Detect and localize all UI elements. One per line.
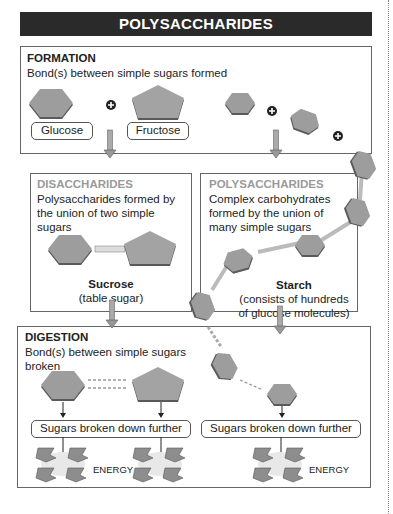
energy-burst-icon	[133, 448, 185, 482]
plus-icon	[106, 100, 116, 110]
plus-icon	[267, 106, 277, 116]
glucose-hexagon-small	[287, 106, 323, 137]
energy-burst-icon	[253, 448, 305, 482]
digest-glucose-hexagon	[41, 371, 85, 401]
fructose-pentagon	[132, 85, 184, 120]
sucrose-glucose-hexagon	[48, 235, 92, 265]
energy-burst-icon	[36, 448, 88, 482]
starch-hexagon	[348, 147, 379, 183]
glucose-hexagon	[29, 89, 73, 119]
plus-icon	[333, 131, 343, 141]
arrow-down-icon	[270, 130, 282, 158]
arrow-down-icon	[104, 130, 116, 158]
sucrose-fructose-pentagon	[124, 231, 176, 266]
diagram-graphics	[0, 0, 393, 514]
starch-hexagon	[207, 348, 241, 385]
digest-glucose-hexagon	[267, 384, 297, 406]
glucose-hexagon-small	[225, 93, 255, 115]
digest-fructose-pentagon	[132, 367, 184, 402]
arrow-down-icon	[274, 306, 286, 334]
starch-hexagon	[187, 288, 218, 324]
starch-hexagon	[295, 235, 325, 257]
arrow-down-icon	[106, 300, 118, 328]
